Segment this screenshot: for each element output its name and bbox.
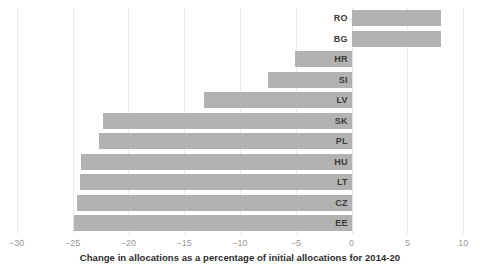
category-label-si: SI: [308, 72, 348, 88]
x-tick-label-10: 10: [443, 236, 480, 250]
bar-chart: ROBGHRSILVSKPLHULTCZEE −30−25−20−15−10−5…: [0, 0, 480, 272]
x-tick-label-5: 5: [387, 236, 427, 250]
bars-layer: ROBGHRSILVSKPLHULTCZEE: [0, 8, 480, 234]
x-axis: −30−25−20−15−10−50510: [0, 236, 480, 252]
bar-bg: [352, 31, 441, 47]
category-label-hu: HU: [308, 154, 348, 170]
category-label-pl: PL: [308, 133, 348, 149]
x-axis-title: Change in allocations as a percentage of…: [0, 252, 480, 263]
bar-ro: [352, 10, 441, 26]
plot-area: ROBGHRSILVSKPLHULTCZEE: [0, 8, 480, 234]
category-label-ro: RO: [308, 10, 348, 26]
bar-row: SI: [0, 70, 480, 91]
x-tick-label--5: −5: [276, 236, 316, 250]
x-tick-label--15: −15: [164, 236, 204, 250]
x-tick-label--10: −10: [220, 236, 260, 250]
category-label-lt: LT: [308, 174, 348, 190]
x-tick-label--25: −25: [53, 236, 93, 250]
x-tick-label-0: 0: [332, 236, 372, 250]
category-label-bg: BG: [308, 31, 348, 47]
bar-row: SK: [0, 111, 480, 132]
bar-row: CZ: [0, 193, 480, 214]
category-label-lv: LV: [308, 92, 348, 108]
bar-row: BG: [0, 29, 480, 50]
category-label-ee: EE: [308, 215, 348, 231]
bar-row: EE: [0, 213, 480, 234]
category-label-sk: SK: [308, 113, 348, 129]
category-label-hr: HR: [308, 51, 348, 67]
bar-row: PL: [0, 131, 480, 152]
bar-row: HR: [0, 49, 480, 70]
x-tick-label--20: −20: [108, 236, 148, 250]
bar-row: LT: [0, 172, 480, 193]
bar-row: RO: [0, 8, 480, 29]
category-label-cz: CZ: [308, 195, 348, 211]
bar-row: LV: [0, 90, 480, 111]
x-tick-label--30: −30: [0, 236, 37, 250]
bar-row: HU: [0, 152, 480, 173]
